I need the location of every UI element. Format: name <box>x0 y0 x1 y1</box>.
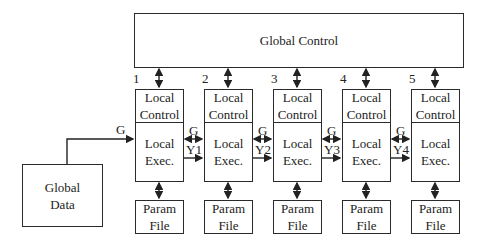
local-control-label: Local Control <box>416 89 456 123</box>
local-exec-box: Local Exec. <box>135 122 184 182</box>
processor-index: 3 <box>271 72 278 85</box>
param-file-label: Param File <box>212 200 245 234</box>
local-exec-box: Local Exec. <box>204 122 253 182</box>
processor-index: 1 <box>133 72 140 85</box>
param-file-label: Param File <box>143 200 176 234</box>
local-exec-label: Local Exec. <box>283 135 313 169</box>
local-control-label: Local Control <box>140 89 180 123</box>
link-y-label: Y3 <box>324 143 340 156</box>
local-control-label: Local Control <box>209 89 249 123</box>
local-exec-box: Local Exec. <box>411 122 460 182</box>
local-control-box: Local Control <box>411 89 460 123</box>
link-y-label: Y1 <box>186 143 202 156</box>
local-exec-label: Local Exec. <box>214 135 244 169</box>
processor-index: 2 <box>202 72 209 85</box>
param-file-box: Param File <box>135 200 184 234</box>
local-exec-box: Local Exec. <box>273 122 322 182</box>
processor-index: 4 <box>340 72 347 85</box>
param-file-label: Param File <box>350 200 383 234</box>
global-control-label: Global Control <box>260 32 338 49</box>
param-file-box: Param File <box>342 200 391 234</box>
global-data-box: Global Data <box>22 164 103 227</box>
param-file-label: Param File <box>281 200 314 234</box>
param-file-box: Param File <box>204 200 253 234</box>
local-control-label: Local Control <box>278 89 318 123</box>
param-file-box: Param File <box>411 200 460 234</box>
link-y-label: Y4 <box>393 143 409 156</box>
local-control-box: Local Control <box>135 89 184 123</box>
global-control-box: Global Control <box>134 13 464 68</box>
link-g-label: G <box>189 124 198 137</box>
param-file-label: Param File <box>419 200 452 234</box>
link-g-label: G <box>327 124 336 137</box>
global-data-link-label: G <box>116 123 125 136</box>
local-exec-box: Local Exec. <box>342 122 391 182</box>
local-control-label: Local Control <box>347 89 387 123</box>
local-exec-label: Local Exec. <box>145 135 175 169</box>
global-data-label: Global Data <box>45 179 80 213</box>
param-file-box: Param File <box>273 200 322 234</box>
processor-index: 5 <box>409 72 416 85</box>
local-control-box: Local Control <box>342 89 391 123</box>
local-exec-label: Local Exec. <box>352 135 382 169</box>
local-control-box: Local Control <box>204 89 253 123</box>
local-control-box: Local Control <box>273 89 322 123</box>
link-y-label: Y2 <box>255 143 271 156</box>
link-g-label: G <box>396 124 405 137</box>
local-exec-label: Local Exec. <box>421 135 451 169</box>
link-g-label: G <box>258 124 267 137</box>
